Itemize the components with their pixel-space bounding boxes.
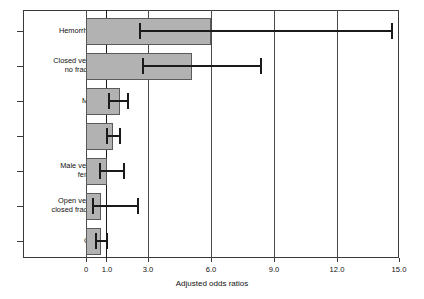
x-axis-tick-label-12: 12.0 (330, 265, 345, 274)
x-axis-tick-label-6: 6.0 (206, 265, 217, 274)
x-tick-mark-6 (211, 258, 212, 262)
ci-cap-high-hemorrhage (391, 23, 393, 39)
ci-cap-high-mais (127, 93, 129, 109)
y-label-mais-wrap: MAIS (0, 92, 100, 110)
x-tick-mark-15 (399, 258, 400, 262)
y-label-age-wrap: Age (0, 127, 100, 145)
ci-cap-low-male-versus-female (99, 163, 101, 179)
ci-line-mais (108, 100, 128, 102)
ci-cap-high-gcs (106, 233, 108, 249)
ci-cap-low-mais (108, 93, 110, 109)
ci-cap-low-closed-versus-no-fracture (142, 58, 144, 74)
ci-line-hemorrhage (139, 30, 392, 32)
x-axis-tick-label-3: 3.0 (143, 265, 154, 274)
ci-cap-low-hemorrhage (139, 23, 141, 39)
y-label-male-versus-female-wrap: Male versus female (0, 162, 100, 180)
odds-ratio-chart: Hemorrhage Closed versus no fracture MAI… (0, 0, 424, 299)
y-label-gcs-wrap: GCS (0, 232, 100, 250)
y-label-hemorrhage-wrap: Hemorrhage (0, 22, 100, 40)
y-label-open-versus-closed-fracture-wrap: Open versus closed fracture (0, 197, 100, 215)
x-axis-tick-label-1: 1.0 (102, 265, 113, 274)
ci-cap-high-age (119, 128, 121, 144)
ci-cap-low-gcs (95, 233, 97, 249)
x-tick-mark-0 (86, 258, 87, 262)
ci-cap-high-male-versus-female (123, 163, 125, 179)
x-tick-mark-12 (337, 258, 338, 262)
y-label-closed-versus-no-fracture-wrap: Closed versus no fracture (0, 57, 100, 75)
gridline-12 (337, 10, 338, 258)
ci-line-age (106, 135, 120, 137)
x-axis-tick-label-0: 0 (84, 265, 88, 274)
x-axis-tick-label-9: 9.0 (269, 265, 280, 274)
gridline-9 (274, 10, 275, 258)
gridline-6 (211, 10, 212, 258)
ci-line-closed-versus-no-fracture (142, 65, 261, 67)
x-axis-tick-label-15: 15.0 (392, 265, 407, 274)
x-tick-mark-3 (148, 258, 149, 262)
ci-cap-high-open-versus-closed-fracture (137, 198, 139, 214)
ci-line-male-versus-female (99, 170, 124, 172)
x-axis-title: Adjusted odds ratios (0, 279, 424, 288)
gridline-3 (148, 10, 149, 258)
x-tick-mark-9 (274, 258, 275, 262)
ci-cap-low-age (106, 128, 108, 144)
ci-line-open-versus-closed-fracture (92, 205, 138, 207)
ci-cap-low-open-versus-closed-fracture (92, 198, 94, 214)
ci-cap-high-closed-versus-no-fracture (260, 58, 262, 74)
x-tick-mark-1 (106, 258, 107, 262)
